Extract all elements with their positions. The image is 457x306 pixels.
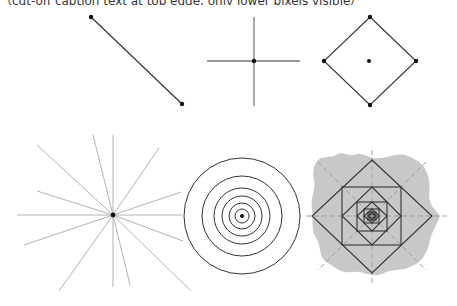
line-segment-figure <box>89 15 184 106</box>
endpoint-a <box>89 15 93 19</box>
diamond-center-point <box>367 59 371 63</box>
starburst-center-point <box>111 213 116 218</box>
nested-squares-figure <box>306 150 448 284</box>
cross-center-point <box>252 59 256 63</box>
diagram-canvas <box>0 0 457 306</box>
circles-center-point <box>240 214 244 218</box>
concentric-circles-figure <box>184 158 300 274</box>
starburst-figure <box>17 135 191 291</box>
endpoint-b <box>180 102 184 106</box>
cross-figure <box>207 17 300 106</box>
diamond-figure <box>322 15 418 107</box>
